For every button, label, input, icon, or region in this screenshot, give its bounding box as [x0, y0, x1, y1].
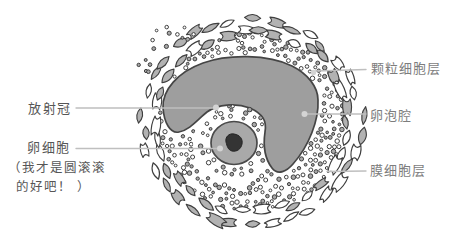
egg-leader-dot	[217, 146, 223, 152]
granulosa-layer-label: 颗粒细胞层	[371, 62, 441, 76]
corona-leader-dot	[213, 105, 219, 111]
theca-layer-label: 膜细胞层	[370, 164, 426, 178]
granulosa-leader-line	[315, 70, 366, 72]
antrum-leader-dot	[302, 111, 308, 117]
antrum-label: 卵泡腔	[370, 109, 412, 123]
egg-note-line2: 的好吧！ ）	[16, 180, 91, 194]
egg-nucleus	[226, 134, 242, 151]
egg-cell-label: 卵细胞	[27, 141, 71, 155]
egg-note-line1: （我才是圆滚滚	[8, 161, 106, 175]
corona-radiata-label: 放射冠	[28, 102, 72, 116]
granulosa-leader-dot	[311, 70, 316, 75]
follicle-diagram-canvas: 放射冠 卵细胞 （我才是圆滚滚 的好吧！ ） 颗粒细胞层 卵泡腔 膜细胞层	[0, 0, 454, 234]
theca-leader-line	[327, 171, 366, 172]
